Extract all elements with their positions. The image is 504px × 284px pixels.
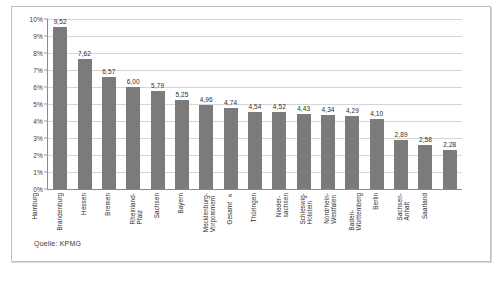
bar-slot: 4,74 [218, 19, 242, 189]
y-axis-tick-label: 3% [33, 135, 43, 142]
bar[interactable] [370, 119, 384, 189]
bar-slot: 5,25 [170, 19, 194, 189]
gridline-0% [48, 189, 462, 190]
source-note: Quelle: KPMG [34, 240, 81, 247]
bar[interactable] [175, 100, 189, 189]
bar-value-label: 4,54 [248, 103, 261, 110]
bar-slot: 4,43 [292, 19, 316, 189]
bar-slot: 4,96 [194, 19, 218, 189]
bar-value-label: 4,96 [200, 96, 213, 103]
bar-value-label: 6,00 [127, 78, 140, 85]
y-axis-tick-label: 10% [29, 16, 43, 23]
y-axis-tick-label: 7% [33, 67, 43, 74]
y-axis-tick-label: 0% [33, 186, 43, 193]
bar[interactable] [345, 116, 359, 189]
plot-area: 10%9%8%7%6%5%4%3%2%1%0% 9,527,626,576,00… [48, 19, 462, 189]
bar-value-label: 5,79 [151, 82, 164, 89]
bar-value-label: 4,52 [273, 103, 286, 110]
bar-value-label: 4,10 [370, 110, 383, 117]
bar-slot: 4,54 [243, 19, 267, 189]
bar-slot: 7,62 [72, 19, 96, 189]
y-axis-tick-label: 4% [33, 118, 43, 125]
bar-value-label: 9,52 [54, 18, 67, 25]
bar-value-label: 5,25 [175, 91, 188, 98]
bar-slot: 6,57 [97, 19, 121, 189]
bar[interactable] [272, 112, 286, 189]
bar[interactable] [151, 91, 165, 189]
bar[interactable] [53, 27, 67, 189]
bar-slot: 9,52 [48, 19, 72, 189]
bar[interactable] [297, 114, 311, 189]
y-axis-tick-label: 2% [33, 152, 43, 159]
bar-slot: 4,52 [267, 19, 291, 189]
bar-value-label: 6,57 [102, 68, 115, 75]
bar-value-label: 7,62 [78, 50, 91, 57]
bar[interactable] [443, 150, 457, 189]
y-axis-tick-label: 9% [33, 33, 43, 40]
chart-figure: 10%9%8%7%6%5%4%3%2%1%0% 9,527,626,576,00… [11, 6, 491, 262]
bar-slot: 6,00 [121, 19, 145, 189]
bar-value-label: 4,29 [346, 107, 359, 114]
bar-slot: 4,10 [365, 19, 389, 189]
bar-value-label: 4,34 [322, 106, 335, 113]
y-axis-tick-label: 6% [33, 84, 43, 91]
y-axis-tick-label: 5% [33, 101, 43, 108]
bar[interactable] [224, 108, 238, 189]
bar-slot: 2,89 [389, 19, 413, 189]
bar-series: 9,527,626,576,005,795,254,964,744,544,52… [48, 19, 462, 189]
bar[interactable] [394, 140, 408, 189]
category-label: Saarland [421, 193, 479, 219]
y-axis-tick-label: 1% [33, 169, 43, 176]
bar-value-label: 2,89 [395, 131, 408, 138]
bar-slot: 2,28 [438, 19, 462, 189]
bar[interactable] [321, 115, 335, 189]
bar-value-label: 2,58 [419, 136, 432, 143]
bar[interactable] [78, 59, 92, 189]
bar-slot: 2,58 [413, 19, 437, 189]
bar[interactable] [418, 145, 432, 189]
y-axis-tick-label: 8% [33, 50, 43, 57]
bar[interactable] [102, 77, 116, 189]
bar[interactable] [126, 87, 140, 189]
bar[interactable] [248, 112, 262, 189]
bar-value-label: 4,43 [297, 105, 310, 112]
bar-value-label: 2,28 [443, 141, 456, 148]
bar-slot: 4,34 [316, 19, 340, 189]
bar[interactable] [199, 105, 213, 189]
bar-slot: 4,29 [340, 19, 364, 189]
bar-value-label: 4,74 [224, 99, 237, 106]
bar-slot: 5,79 [145, 19, 169, 189]
